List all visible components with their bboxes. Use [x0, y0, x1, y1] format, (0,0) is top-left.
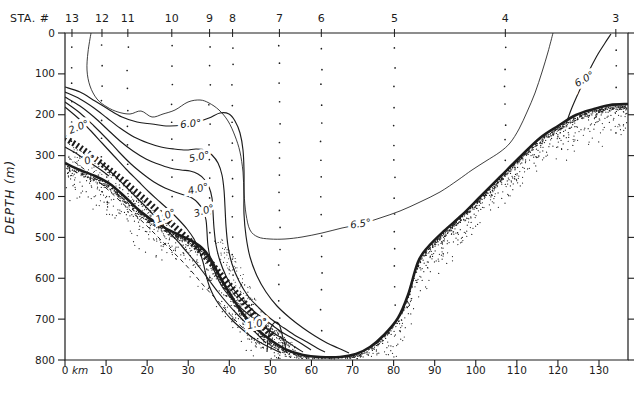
distance-tick-label: 130: [589, 364, 609, 376]
seafloor: [65, 104, 628, 357]
station-number-label: 4: [502, 12, 509, 25]
distance-unit-label: km: [72, 364, 88, 376]
station-number-label: 12: [95, 12, 109, 25]
temperature-depth-section-plot: 6.5°6.0°5.0°4.0°3.0°2.0°0°1.0°1.0°6.0°01…: [0, 0, 641, 393]
isotherm-sub-zero-11: [93, 177, 261, 345]
isotherm-6-0-1: [65, 87, 349, 353]
station-number-label: 8: [229, 12, 236, 25]
station-number-label: 5: [391, 12, 398, 25]
contour-label: 3.0°: [192, 202, 215, 219]
station-number-label: 3: [612, 12, 619, 25]
station-number-label: 6: [318, 12, 325, 25]
station-number-label: 10: [165, 12, 179, 25]
distance-tick-label: 40: [223, 364, 236, 376]
distance-tick-label: 110: [507, 364, 527, 376]
depth-tick-label: 600: [35, 272, 55, 284]
distance-tick-label: 100: [466, 364, 486, 376]
depth-tick-label: 200: [35, 108, 55, 120]
distance-tick-label: 60: [305, 364, 318, 376]
isotherm-2-0-6: [65, 107, 281, 353]
plot-frame: [65, 33, 628, 360]
contour-label: 4.0°: [187, 181, 210, 197]
distance-tick-label: 70: [346, 364, 359, 376]
distance-tick-label: 90: [428, 364, 441, 376]
contour-label: 6.5°: [349, 217, 371, 231]
distance-tick-label: 50: [264, 364, 277, 376]
contour-label: 6.0°: [180, 117, 202, 130]
depth-axis: 0100200300400500600700800DEPTH (m): [3, 27, 634, 366]
depth-tick-label: 0: [48, 27, 55, 39]
contour-label: 5.0°: [188, 149, 211, 164]
distance-tick-label: 80: [387, 364, 400, 376]
depth-tick-label: 100: [35, 67, 55, 79]
station-axis-title: STA. #: [10, 12, 49, 25]
distance-tick-label: 10: [99, 364, 112, 376]
station-number-label: 13: [65, 12, 79, 25]
station-number-label: 7: [276, 12, 283, 25]
plot-border: [65, 33, 628, 360]
depth-axis-title: DEPTH (m): [3, 160, 17, 234]
station-number-label: 11: [121, 12, 135, 25]
temperature-depth-section-figure: 6.5°6.0°5.0°4.0°3.0°2.0°0°1.0°1.0°6.0°01…: [0, 0, 641, 393]
distance-tick-label: 30: [182, 364, 195, 376]
isotherm-3-0-5: [65, 102, 303, 352]
station-number-label: 9: [206, 12, 213, 25]
depth-tick-label: 800: [35, 354, 55, 366]
distance-tick-label: 120: [548, 364, 568, 376]
depth-tick-label: 300: [35, 149, 55, 161]
seafloor-profile-line: [65, 104, 628, 357]
distance-tick-label: 20: [140, 364, 153, 376]
distance-tick-label: 0: [62, 364, 69, 376]
isotherm-5-0-3: [65, 92, 325, 352]
depth-tick-label: 500: [35, 231, 55, 243]
distance-axis: 0102030405060708090100110120130km: [62, 360, 609, 376]
depth-tick-label: 700: [35, 313, 55, 325]
isotherms: [65, 33, 611, 353]
contour-label: 6.0°: [572, 69, 596, 89]
contour-label: 2.0°: [67, 118, 91, 136]
depth-tick-label: 400: [35, 190, 55, 202]
station-dot-columns: [71, 44, 618, 339]
isotherm-4-0-4: [65, 97, 311, 350]
